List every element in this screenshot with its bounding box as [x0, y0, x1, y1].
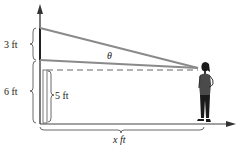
brace-x	[40, 127, 204, 133]
label-theta: θ	[107, 50, 112, 61]
brace-5ft	[48, 71, 54, 122]
diagram-canvas: 3 ft 6 ft 5 ft x ft θ	[0, 0, 246, 149]
brace-6ft	[30, 61, 36, 123]
woman-figure-icon	[197, 62, 213, 122]
axis-arrowhead-up-icon	[37, 4, 43, 14]
axis-arrowhead-right-icon	[226, 121, 236, 127]
label-x-ft: x ft	[112, 134, 126, 145]
label-6ft: 6 ft	[4, 86, 18, 97]
eye-height-marker	[43, 70, 47, 123]
label-3ft: 3 ft	[4, 39, 18, 50]
vertical-axis	[37, 4, 43, 124]
brace-3ft	[30, 28, 36, 60]
label-5ft: 5 ft	[55, 90, 69, 101]
